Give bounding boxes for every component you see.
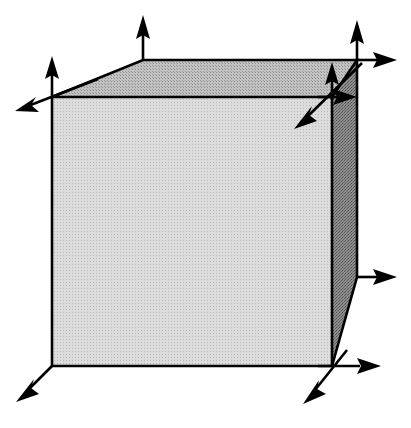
cube-axes-diagram [0, 0, 411, 428]
arrow-right-back-top-right [357, 52, 397, 68]
arrow-right-back-bottom-right [357, 269, 397, 285]
arrow-up-back-top-left [136, 15, 150, 60]
arrow-up-front-top-left [45, 56, 59, 97]
cube-front-face [52, 97, 332, 366]
arrow-up-back-top-right [350, 20, 364, 60]
arrow-diagonal-front-bottom-left [16, 366, 52, 402]
cube [52, 60, 357, 366]
figure-canvas [0, 0, 411, 428]
